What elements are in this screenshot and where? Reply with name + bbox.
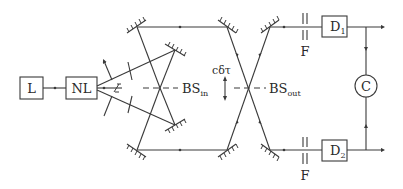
mirror-bottom-left (127, 144, 146, 160)
beam-bsin-to-mirror-bl (137, 88, 160, 150)
mirror-inner-bottom (165, 119, 186, 133)
pump-beam (97, 84, 122, 92)
detector-2: D2 (322, 140, 347, 161)
delay-label: cδτ (212, 64, 231, 77)
mirror-inner-top (165, 42, 186, 56)
coincidence-label: C (361, 79, 371, 94)
mirror-output-bottom (261, 144, 279, 161)
mirror-output-top (261, 16, 279, 33)
laser: L (20, 77, 43, 99)
optical-setup-diagram: L NL BSin (0, 0, 403, 189)
bs-out-label: BSout (269, 81, 301, 98)
nonlinear-crystal: NL (66, 77, 97, 99)
mirror-top-left (127, 17, 146, 33)
nl-label: NL (71, 81, 91, 96)
coincidence-counter: C (355, 75, 377, 97)
filter-top: F (300, 13, 309, 59)
bs-in-label: BSin (182, 81, 208, 98)
filter-bottom: F (300, 137, 309, 183)
beam-bsin-to-mirror-tl (137, 27, 160, 88)
filter-bottom-label: F (300, 168, 309, 183)
filter-top-label: F (300, 44, 309, 59)
laser-label: L (27, 81, 36, 96)
delay-indicator: cδτ (212, 64, 231, 101)
detector-1: D1 (322, 16, 347, 37)
